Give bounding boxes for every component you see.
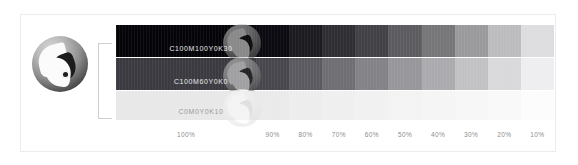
swatch-100 (116, 25, 256, 57)
swatch-texture (388, 58, 421, 90)
axis-tick-20: 20% (488, 128, 521, 142)
swatch-80 (289, 91, 322, 120)
swatch-texture (322, 91, 355, 120)
swatch-texture (116, 25, 256, 57)
swatch-90 (256, 91, 289, 120)
tint-strips: C100M100Y0K30 C100M60Y0K0 (116, 25, 554, 120)
swatch-20 (488, 58, 521, 90)
swatch-texture (256, 91, 289, 120)
swatch-60 (355, 58, 388, 90)
swatch-30 (455, 25, 488, 57)
axis-tick-70: 70% (322, 128, 355, 142)
swatch-10 (521, 58, 554, 90)
swatch-70 (322, 25, 355, 57)
swatch-30 (455, 58, 488, 90)
axis-tick-90: 90% (256, 128, 289, 142)
swatch-40 (422, 58, 455, 90)
swatch-10 (521, 91, 554, 120)
swatch-texture (455, 91, 488, 120)
axis-tick-80: 80% (289, 128, 322, 142)
swatch-texture (355, 25, 388, 57)
swatch-50 (388, 91, 421, 120)
axis-tick-10: 10% (521, 128, 554, 142)
swatch-20 (488, 25, 521, 57)
swatch-texture (289, 91, 322, 120)
swatch-90 (256, 25, 289, 57)
tint-axis: 100% 90% 80% 70% 60% 50% 40% 30% 20% 10% (116, 128, 554, 142)
swatch-20 (488, 91, 521, 120)
swatch-texture (488, 25, 521, 57)
swatch-80 (289, 58, 322, 90)
logo-disc-icon (32, 36, 88, 92)
swatch-50 (388, 25, 421, 57)
logo-dot-inner (63, 72, 68, 77)
swatch-texture (256, 58, 289, 90)
tint-strip-row: C100M60Y0K0 (116, 58, 554, 90)
swatch-40 (422, 91, 455, 120)
axis-tick-50: 50% (388, 128, 421, 142)
swatch-texture (355, 58, 388, 90)
swatch-texture (422, 25, 455, 57)
swatch-texture (116, 91, 256, 120)
swatch-texture (422, 58, 455, 90)
swatch-texture (388, 91, 421, 120)
figure-root: C100M100Y0K30 C100M60Y0K0 (0, 0, 578, 165)
swatch-texture (521, 58, 554, 90)
swatch-texture (322, 58, 355, 90)
axis-tick-60: 60% (355, 128, 388, 142)
swatch-texture (116, 58, 256, 90)
swatch-10 (521, 25, 554, 57)
swatch-100 (116, 58, 256, 90)
swatch-texture (289, 25, 322, 57)
bracket (98, 43, 112, 119)
swatch-texture (422, 91, 455, 120)
swatch-30 (455, 91, 488, 120)
swatch-80 (289, 25, 322, 57)
swatch-texture (521, 25, 554, 57)
swatch-texture (488, 91, 521, 120)
axis-tick-40: 40% (422, 128, 455, 142)
swatch-texture (455, 25, 488, 57)
swatch-70 (322, 58, 355, 90)
swatch-texture (289, 58, 322, 90)
swatch-texture (322, 25, 355, 57)
swatch-texture (256, 25, 289, 57)
swatch-texture (488, 58, 521, 90)
swatch-40 (422, 25, 455, 57)
swatch-texture (521, 91, 554, 120)
swatch-70 (322, 91, 355, 120)
swatch-texture (355, 91, 388, 120)
axis-tick-30: 30% (455, 128, 488, 142)
swatch-60 (355, 91, 388, 120)
swatch-90 (256, 58, 289, 90)
swatch-texture (455, 58, 488, 90)
brand-logo (29, 33, 91, 103)
swatch-60 (355, 25, 388, 57)
tint-strip-row: C100M100Y0K30 (116, 25, 554, 57)
tint-strip-row: C0M0Y0K10 (116, 91, 554, 120)
swatch-50 (388, 58, 421, 90)
swatch-texture (388, 25, 421, 57)
swatch-100 (116, 91, 256, 120)
axis-tick-100: 100% (116, 128, 256, 142)
